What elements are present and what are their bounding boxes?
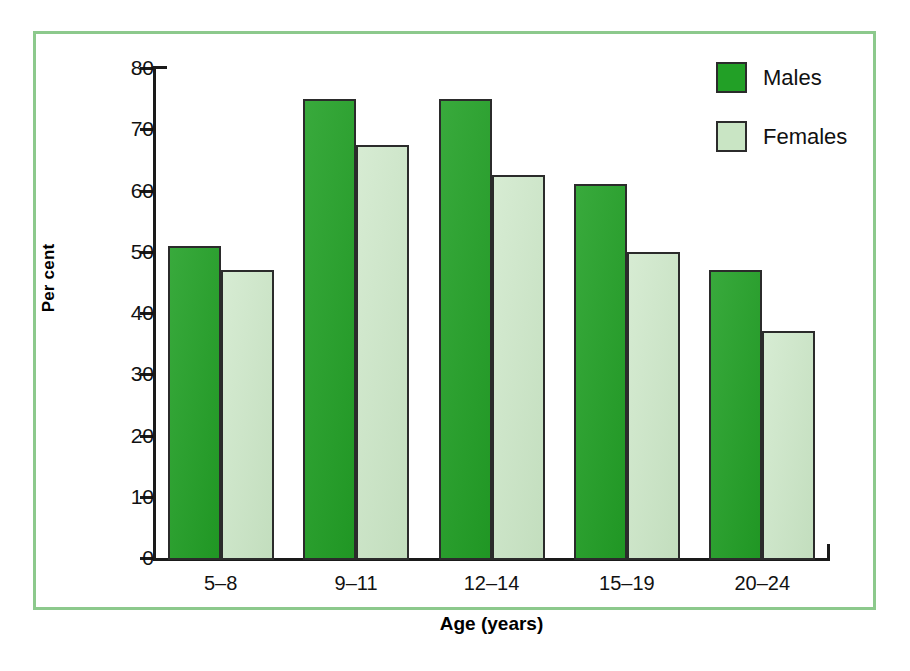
chart-frame bbox=[33, 31, 876, 610]
x-axis-title: Age (years) bbox=[153, 613, 830, 635]
